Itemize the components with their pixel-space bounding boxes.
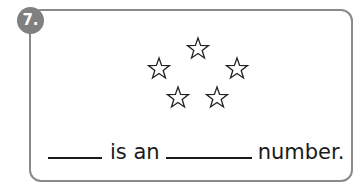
star-icon — [168, 87, 189, 107]
sentence-text-1: is an — [110, 140, 160, 164]
star-icon — [207, 87, 228, 107]
fill-in-sentence: is annumber. — [48, 140, 344, 164]
answer-blank-2[interactable] — [166, 156, 252, 159]
star-icon — [188, 38, 209, 58]
star-icon — [227, 58, 248, 78]
stars-illustration — [140, 35, 255, 115]
star-icon — [149, 58, 170, 78]
answer-blank-1[interactable] — [48, 156, 102, 159]
question-number-badge: 7. — [17, 7, 44, 34]
sentence-text-2: number. — [258, 140, 345, 164]
